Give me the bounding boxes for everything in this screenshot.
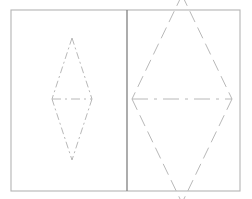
technical-drawing	[0, 0, 252, 199]
drawing-canvas	[0, 0, 252, 199]
canvas-background	[0, 0, 252, 199]
